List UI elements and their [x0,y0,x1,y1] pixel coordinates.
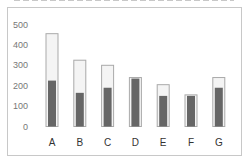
bar-chart: 0100200300400500ABCDEFG [0,0,249,161]
bar-inner-G [215,88,223,127]
bar-inner-D [131,79,139,127]
x-tick-label: D [132,137,139,148]
y-tick-label: 500 [13,20,28,30]
bar-inner-A [48,81,56,127]
y-tick-label: 400 [13,40,28,50]
bar-inner-F [187,96,195,127]
bar-inner-E [159,96,167,127]
x-tick-label: E [160,137,167,148]
x-tick-label: B [76,137,83,148]
y-tick-label: 300 [13,60,28,70]
y-tick-label: 200 [13,81,28,91]
x-tick-label: C [104,137,111,148]
y-tick-label: 100 [13,101,28,111]
bar-inner-B [76,93,84,127]
x-tick-label: G [215,137,223,148]
bar-inner-C [104,88,112,127]
x-tick-label: F [188,137,194,148]
x-tick-label: A [49,137,56,148]
y-tick-label: 0 [23,122,28,132]
